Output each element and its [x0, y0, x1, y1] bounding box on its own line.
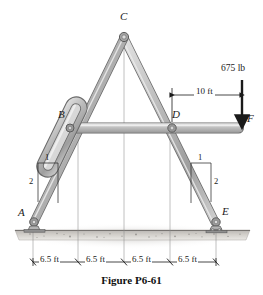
point-label-A: A	[18, 206, 25, 218]
slope-right-run-label: 2	[214, 176, 218, 186]
pin-joint-B	[66, 124, 74, 132]
slope-right-rise-label: 1	[198, 152, 202, 162]
support-A-pin	[24, 218, 45, 232]
member-BF	[56, 123, 244, 134]
baseline-dim-3: 6.5 ft	[131, 254, 152, 264]
point-label-C: C	[120, 10, 127, 22]
baseline-dim-2: 6.5 ft	[85, 254, 106, 264]
frame-diagram	[0, 0, 263, 295]
slope-left-rise-label: 1	[45, 152, 49, 162]
load-magnitude-label: 675 lb	[221, 63, 245, 73]
pin-joint-C	[119, 32, 128, 41]
baseline-dim-4: 6.5 ft	[177, 254, 198, 264]
baseline-dim-1: 6.5 ft	[39, 254, 60, 264]
point-label-E: E	[222, 205, 229, 217]
point-label-B: B	[58, 108, 65, 120]
figure-container: A B C D E F 675 lb 10 ft 1 2 1 2 6.5 ft …	[0, 0, 263, 295]
figure-caption: Figure P6-61	[0, 274, 263, 286]
point-label-F: F	[247, 112, 254, 124]
pin-joint-D	[168, 124, 176, 132]
point-label-D: D	[172, 108, 180, 120]
slope-left-run-label: 2	[29, 176, 33, 186]
dimension-10ft-label: 10 ft	[194, 86, 215, 96]
